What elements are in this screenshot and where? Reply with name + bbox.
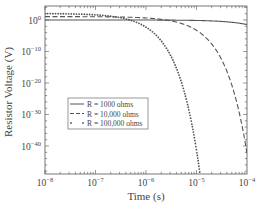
axis-ticks (45, 6, 247, 174)
data-point (188, 109, 190, 111)
data-point (120, 17, 122, 19)
data-point (89, 14, 91, 16)
data-point (49, 13, 51, 15)
data-point (123, 18, 125, 20)
data-point (185, 95, 187, 97)
data-point (83, 13, 85, 15)
data-point (172, 59, 174, 61)
data-point (196, 154, 198, 156)
legend-label-3: R = 100,000 ohms (87, 119, 143, 128)
data-point (178, 74, 180, 76)
data-point (147, 28, 149, 30)
data-point (118, 16, 120, 18)
data-point (193, 137, 195, 139)
data-point (94, 14, 96, 16)
data-point (187, 106, 189, 108)
data-point (57, 13, 59, 15)
data-point (78, 13, 80, 15)
data-point (131, 20, 133, 22)
data-point (180, 80, 182, 82)
data-point (164, 45, 166, 47)
data-point (99, 14, 101, 16)
plot-frame (45, 6, 247, 174)
data-point (145, 26, 147, 28)
curve-r-100000 (44, 13, 201, 173)
data-point (70, 13, 72, 15)
data-point (110, 15, 112, 17)
data-point (55, 13, 57, 15)
y-tick-label: 100 (28, 14, 41, 26)
data-point (176, 69, 178, 71)
data-point (81, 13, 83, 15)
x-tick-label: 10−6 (138, 176, 155, 188)
data-point (157, 36, 159, 38)
legend-swatch-dot (82, 122, 84, 124)
data-point (138, 22, 140, 24)
data-point (179, 77, 181, 79)
y-tick-labels: 10010−1010−2010−3010−40 (21, 14, 41, 152)
data-point (156, 35, 158, 37)
data-point (186, 101, 188, 103)
y-tick-label: 10−10 (21, 45, 41, 57)
data-point (91, 14, 93, 16)
legend-label-1: R = 1000 ohms (87, 100, 133, 109)
x-tick-label: 10−8 (37, 176, 53, 188)
data-point (194, 140, 196, 142)
curve-r-10000 (45, 17, 247, 154)
legend-swatch-dot (70, 122, 72, 124)
legend-label-2: R = 10,000 ohms (87, 110, 139, 119)
legend: R = 1000 ohms R = 10,000 ohms R = 100,00… (68, 98, 148, 129)
data-point (154, 33, 156, 35)
data-point (102, 14, 104, 16)
curve-r-1000 (45, 20, 247, 25)
data-point (196, 152, 198, 154)
data-point (192, 128, 194, 130)
data-point (76, 13, 78, 15)
data-point (73, 13, 75, 15)
data-point (168, 52, 170, 54)
data-point (185, 98, 187, 100)
data-point (189, 112, 191, 114)
x-tick-label: 10−4 (239, 176, 256, 188)
data-point (198, 168, 200, 170)
data-point (184, 93, 186, 95)
data-point (191, 126, 193, 128)
data-point (196, 149, 198, 151)
data-point (190, 120, 192, 122)
data-point (187, 104, 189, 106)
data-point (195, 146, 197, 148)
data-point (65, 13, 67, 15)
data-point (181, 82, 183, 84)
data-point (86, 13, 88, 15)
data-point (198, 165, 200, 167)
data-point (166, 47, 168, 49)
x-tick-label: 10−7 (87, 176, 104, 188)
data-point (52, 13, 54, 15)
data-point (133, 20, 135, 22)
data-point (189, 114, 191, 116)
data-point (171, 57, 173, 59)
y-tick-label: 10−20 (21, 77, 41, 89)
x-axis-label: Time (s) (127, 190, 165, 203)
data-point (170, 54, 172, 56)
data-point (177, 72, 179, 74)
data-point (190, 117, 192, 119)
x-tick-label: 10−5 (188, 176, 204, 188)
data-point (140, 24, 142, 26)
data-point (197, 157, 199, 159)
data-point (62, 13, 64, 15)
data-point (97, 14, 99, 16)
data-curves (44, 13, 247, 173)
data-point (173, 62, 175, 64)
data-point (126, 18, 128, 20)
data-point (128, 19, 130, 21)
data-point (167, 50, 169, 52)
y-tick-label: 10−40 (21, 140, 41, 152)
data-point (60, 13, 62, 15)
data-point (194, 143, 196, 145)
data-point (193, 134, 195, 136)
y-axis-label: Resistor Voltage (V) (2, 47, 15, 137)
data-point (161, 41, 163, 43)
data-point (198, 163, 200, 165)
data-point (183, 90, 185, 92)
